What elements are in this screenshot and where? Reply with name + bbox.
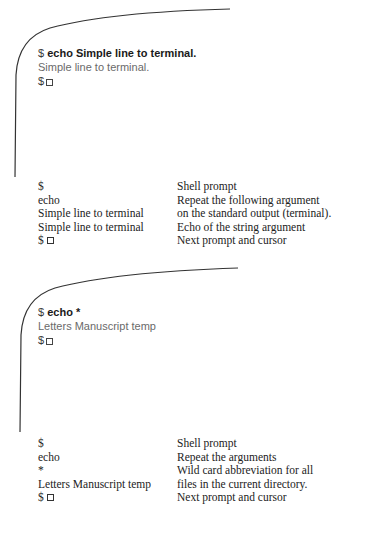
command-line: $ echo Simple line to terminal.	[38, 46, 196, 60]
prompt-symbol: $	[38, 234, 44, 246]
prompt-symbol: $	[38, 491, 44, 503]
term-cell: echo	[38, 194, 177, 208]
next-prompt-line: $	[38, 333, 156, 347]
table-row: $ Next prompt and cursor	[38, 491, 313, 505]
term-cell: echo	[38, 451, 177, 465]
term-cell: $	[38, 491, 177, 505]
desc-cell: Echo of the string argument	[177, 221, 305, 235]
cursor-icon	[46, 338, 53, 345]
table-row: $ Next prompt and cursor	[38, 234, 331, 248]
typed-command: echo *	[44, 306, 80, 318]
cursor-icon	[47, 237, 54, 244]
typed-command: echo Simple line to terminal.	[47, 47, 196, 59]
explanation-table-1: $ Shell prompt echo Repeat the following…	[38, 180, 331, 248]
desc-cell: Shell prompt	[177, 180, 237, 194]
table-row: * Wild card abbreviation for all	[38, 464, 313, 478]
terminal-screen-2: $ echo * Letters Manuscript temp $	[38, 305, 156, 347]
terminal-screen-outline-1	[15, 9, 230, 177]
desc-cell: Next prompt and cursor	[177, 491, 287, 505]
term-cell: $	[38, 437, 177, 451]
next-prompt-line: $	[38, 74, 196, 88]
command-line: $ echo *	[38, 305, 156, 319]
table-row: $ Shell prompt	[38, 437, 313, 451]
term-cell: *	[38, 464, 177, 478]
desc-cell: Shell prompt	[177, 437, 237, 451]
desc-cell: Repeat the arguments	[177, 451, 276, 465]
desc-cell: Next prompt and cursor	[177, 234, 287, 248]
shell-prompt: $	[38, 75, 44, 87]
cursor-icon	[46, 79, 53, 86]
term-cell: $	[38, 180, 177, 194]
table-row: $ Shell prompt	[38, 180, 331, 194]
table-row: Simple line to terminal on the standard …	[38, 207, 331, 221]
term-cell: Simple line to terminal	[38, 207, 177, 221]
terminal-screen-1: $ echo Simple line to terminal. Simple l…	[38, 46, 196, 88]
term-cell: $	[38, 234, 177, 248]
shell-prompt: $	[38, 47, 44, 59]
desc-cell: files in the current directory.	[177, 478, 308, 492]
table-row: echo Repeat the following argument	[38, 194, 331, 208]
desc-cell: Wild card abbreviation for all	[177, 464, 313, 478]
table-row: Simple line to terminal Echo of the stri…	[38, 221, 331, 235]
term-cell: Letters Manuscript temp	[38, 478, 177, 492]
cursor-icon	[47, 494, 54, 501]
command-output: Simple line to terminal.	[38, 60, 196, 74]
desc-cell: on the standard output (terminal).	[177, 207, 331, 221]
table-row: Letters Manuscript temp files in the cur…	[38, 478, 313, 492]
terminal-screen-outline-2	[20, 268, 238, 432]
term-cell: Simple line to terminal	[38, 221, 177, 235]
shell-prompt: $	[38, 334, 44, 346]
desc-cell: Repeat the following argument	[177, 194, 320, 208]
table-row: echo Repeat the arguments	[38, 451, 313, 465]
explanation-table-2: $ Shell prompt echo Repeat the arguments…	[38, 437, 313, 505]
command-output: Letters Manuscript temp	[38, 319, 156, 333]
